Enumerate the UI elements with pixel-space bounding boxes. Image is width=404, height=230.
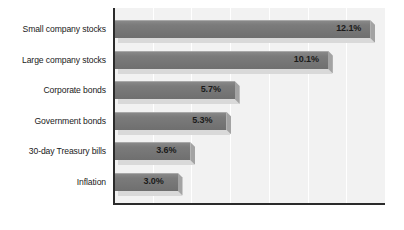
bar: 5.7% — [114, 81, 241, 107]
category-label: Large company stocks — [0, 55, 106, 65]
bar-highlight — [114, 20, 370, 21]
bar-shadow — [118, 191, 182, 196]
bar: 3.0% — [114, 173, 184, 199]
bar-chart-figure: Small company stocksLarge company stocks… — [0, 0, 404, 230]
bar-value-label: 5.3% — [192, 115, 212, 125]
bar-highlight — [114, 112, 226, 113]
bar-value-label: 12.1% — [336, 23, 361, 33]
category-label: Inflation — [0, 177, 106, 187]
bar-face — [114, 20, 370, 38]
category-axis: Small company stocksLarge company stocks… — [0, 0, 110, 230]
bar-highlight — [114, 51, 328, 52]
bar-value-label: 3.0% — [144, 176, 164, 186]
bar: 12.1% — [114, 20, 376, 46]
bar-shadow — [118, 69, 332, 74]
bar-highlight — [114, 142, 190, 143]
bar-value-label: 5.7% — [201, 84, 221, 94]
plot-area: 12.1%10.1%5.7%5.3%3.6%3.0% — [114, 8, 385, 203]
y-axis-line — [113, 8, 115, 204]
bar-value-label: 3.6% — [156, 145, 176, 155]
bar-highlight — [114, 81, 235, 82]
category-label: Small company stocks — [0, 24, 106, 34]
bar-highlight — [114, 173, 178, 174]
bar-shadow — [118, 160, 194, 165]
bar-shadow — [118, 38, 374, 43]
bar-shadow — [118, 99, 239, 104]
bar: 3.6% — [114, 142, 196, 168]
bar: 10.1% — [114, 51, 334, 77]
category-label: 30-day Treasury bills — [0, 146, 106, 156]
bar: 5.3% — [114, 112, 232, 138]
bar-value-label: 10.1% — [294, 54, 319, 64]
category-label: Government bonds — [0, 116, 106, 126]
x-axis-line — [113, 203, 385, 205]
bar-shadow — [118, 130, 230, 135]
category-label: Corporate bonds — [0, 85, 106, 95]
bar-face — [114, 142, 190, 160]
